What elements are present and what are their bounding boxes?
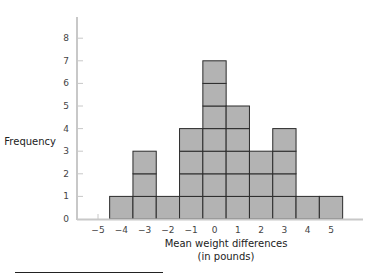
histogram-bin (156, 196, 179, 219)
frequency-square (133, 151, 156, 174)
frequency-square (180, 151, 203, 174)
frequency-square (203, 83, 226, 106)
frequency-square (203, 151, 226, 174)
frequency-square (180, 129, 203, 152)
frequency-square (180, 196, 203, 219)
frequency-square (226, 106, 249, 129)
histogram-bin (180, 129, 203, 219)
histogram-chart: 012345678 −5−4−3−2−1012345 Frequency Mea… (0, 0, 379, 274)
frequency-square (249, 196, 272, 219)
histogram-bin (296, 196, 319, 219)
x-tick-label: −3 (138, 225, 151, 235)
x-tick-label: 5 (328, 225, 334, 235)
frequency-square (180, 174, 203, 197)
y-tick-label: 2 (63, 169, 69, 179)
histogram-bin (203, 61, 226, 219)
footnote-divider (15, 272, 163, 273)
histogram-bin (249, 151, 272, 219)
y-tick-label: 5 (63, 101, 69, 111)
frequency-square (226, 129, 249, 152)
frequency-square (273, 196, 296, 219)
frequency-square (226, 151, 249, 174)
y-tick-label: 7 (63, 56, 69, 66)
histogram-bars (110, 61, 343, 219)
x-tick-label: 1 (235, 225, 241, 235)
frequency-square (273, 129, 296, 152)
frequency-square (203, 174, 226, 197)
x-tick-label: −1 (185, 225, 198, 235)
y-tick-label: 3 (63, 146, 69, 156)
frequency-square (273, 151, 296, 174)
frequency-square (319, 196, 342, 219)
histogram-bin (226, 106, 249, 219)
x-tick-label: −4 (115, 225, 129, 235)
y-tick-label: 6 (63, 78, 69, 88)
histogram-bin (110, 196, 133, 219)
x-tick-label: 4 (305, 225, 311, 235)
frequency-square (249, 151, 272, 174)
x-tick-label: 0 (212, 225, 218, 235)
x-axis-label-units: (in pounds) (198, 251, 255, 262)
x-axis-label: Mean weight differences (165, 238, 288, 249)
x-tick-label: −5 (91, 225, 104, 235)
x-tick-label: 3 (282, 225, 288, 235)
y-tick-label: 4 (63, 124, 69, 134)
histogram-bin (273, 129, 296, 219)
frequency-square (249, 174, 272, 197)
histogram-bin (319, 196, 342, 219)
frequency-square (203, 196, 226, 219)
frequency-square (133, 196, 156, 219)
x-tick-label: −2 (161, 225, 174, 235)
frequency-square (273, 174, 296, 197)
frequency-square (156, 196, 179, 219)
y-axis: 012345678 (63, 17, 83, 224)
frequency-square (226, 196, 249, 219)
frequency-square (110, 196, 133, 219)
histogram-bin (133, 151, 156, 219)
y-tick-label: 0 (63, 214, 69, 224)
y-tick-label: 1 (63, 191, 69, 201)
frequency-square (203, 129, 226, 152)
frequency-square (133, 174, 156, 197)
y-tick-label: 8 (63, 33, 69, 43)
frequency-square (203, 61, 226, 84)
frequency-square (226, 174, 249, 197)
y-axis-label: Frequency (4, 136, 56, 147)
x-tick-label: 2 (258, 225, 264, 235)
frequency-square (203, 106, 226, 129)
frequency-square (296, 196, 319, 219)
